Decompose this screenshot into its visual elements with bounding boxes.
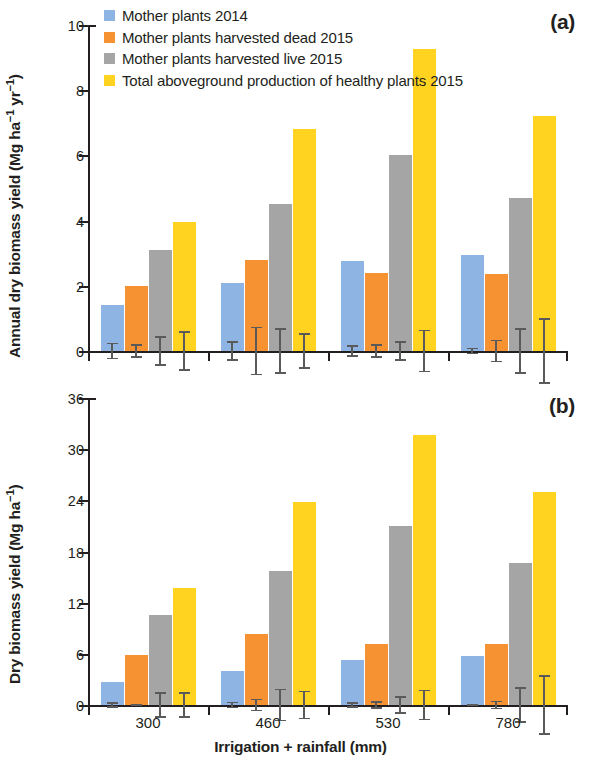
bar[interactable] bbox=[245, 260, 268, 351]
bar[interactable] bbox=[149, 615, 172, 705]
error-bar-cap-bottom bbox=[251, 710, 262, 712]
error-bar-cap-bottom bbox=[251, 374, 262, 376]
bar[interactable] bbox=[101, 305, 124, 351]
bar[interactable] bbox=[461, 656, 484, 705]
error-bar bbox=[231, 341, 233, 361]
bar[interactable] bbox=[149, 250, 172, 351]
x-tick-label-460: 460 bbox=[255, 714, 280, 731]
bar[interactable] bbox=[173, 222, 196, 351]
error-bar bbox=[111, 702, 113, 708]
legend-item-mother_plants_2014[interactable]: Mother plants 2014 bbox=[104, 6, 463, 25]
bar[interactable] bbox=[293, 129, 316, 351]
error-bar-cap-top bbox=[227, 702, 238, 704]
panel-b-y-tick-24 bbox=[79, 500, 88, 502]
error-bar-cap-bottom bbox=[491, 708, 502, 710]
panel-b-y-tick-0 bbox=[79, 705, 88, 707]
bar[interactable] bbox=[389, 155, 412, 351]
error-bar bbox=[471, 348, 473, 355]
panel-a-y-tick-10 bbox=[79, 25, 88, 27]
panel-a-x-tick-3 bbox=[448, 353, 450, 361]
bar[interactable] bbox=[509, 198, 532, 351]
error-bar-cap-bottom bbox=[131, 356, 142, 358]
error-bar-cap-top bbox=[299, 691, 310, 693]
legend-label-total_aboveground_2015: Total aboveground production of healthy … bbox=[122, 72, 463, 89]
error-bar bbox=[135, 704, 137, 707]
bar[interactable] bbox=[533, 492, 556, 705]
bar[interactable] bbox=[485, 644, 508, 705]
x-tick-label-780: 780 bbox=[495, 714, 520, 731]
error-bar bbox=[519, 328, 521, 374]
error-bar-cap-top bbox=[275, 689, 286, 691]
panel-a-y-tick-8 bbox=[79, 90, 88, 92]
error-bar-cap-bottom bbox=[371, 356, 382, 358]
error-bar bbox=[471, 704, 473, 707]
error-bar-cap-top bbox=[371, 344, 382, 346]
error-bar-cap-bottom bbox=[347, 355, 358, 357]
error-bar-cap-bottom bbox=[395, 359, 406, 361]
error-bar-cap-bottom bbox=[347, 706, 358, 708]
error-bar bbox=[279, 328, 281, 374]
legend-label-mother_plants_2014: Mother plants 2014 bbox=[122, 7, 248, 24]
bar[interactable] bbox=[293, 502, 316, 705]
error-bar bbox=[351, 345, 353, 356]
bar[interactable] bbox=[533, 116, 556, 351]
error-bar bbox=[255, 327, 257, 376]
error-bar bbox=[255, 699, 257, 712]
bar[interactable] bbox=[341, 261, 364, 351]
legend-item-harvested_live_2015[interactable]: Mother plants harvested live 2015 bbox=[104, 49, 463, 68]
legend-item-harvested_dead_2015[interactable]: Mother plants harvested dead 2015 bbox=[104, 28, 463, 47]
error-bar bbox=[399, 341, 401, 361]
bar[interactable] bbox=[269, 204, 292, 351]
bar[interactable] bbox=[365, 644, 388, 705]
x-axis-title: Irrigation + rainfall (mm) bbox=[0, 738, 601, 756]
bar[interactable] bbox=[221, 283, 244, 351]
panel-a-x-tick-1 bbox=[208, 353, 210, 361]
error-bar-cap-bottom bbox=[107, 358, 118, 360]
panel-a-y-tick-2 bbox=[79, 286, 88, 288]
bar[interactable] bbox=[461, 255, 484, 351]
error-bar-cap-top bbox=[419, 330, 430, 332]
bar[interactable] bbox=[341, 660, 364, 705]
error-bar bbox=[423, 330, 425, 372]
legend-label-harvested_dead_2015: Mother plants harvested dead 2015 bbox=[122, 29, 353, 46]
bar[interactable] bbox=[173, 588, 196, 705]
error-bar-cap-top bbox=[419, 690, 430, 692]
bar[interactable] bbox=[413, 435, 436, 705]
error-bar-cap-top bbox=[227, 341, 238, 343]
error-bar-cap-top bbox=[515, 687, 526, 689]
bar[interactable] bbox=[101, 682, 124, 705]
bar[interactable] bbox=[221, 671, 244, 705]
error-bar bbox=[183, 331, 185, 370]
bar[interactable] bbox=[509, 563, 532, 705]
panel-b-y-axis-title: Dry biomass yield (Mg ha−1) bbox=[4, 485, 24, 684]
panel-a-y-axis-title: Annual dry biomass yield (Mg ha−1 yr−1) bbox=[4, 74, 24, 358]
error-bar-cap-bottom bbox=[467, 353, 478, 355]
panel-a: (a) Annual dry biomass yield (Mg ha−1 yr… bbox=[0, 0, 601, 386]
bar[interactable] bbox=[365, 273, 388, 351]
panel-b-y-tick-30 bbox=[79, 449, 88, 451]
panel-b-y-tick-36 bbox=[79, 398, 88, 400]
panel-b-plot-area bbox=[88, 398, 568, 707]
legend-swatch-mother_plants_2014 bbox=[104, 10, 115, 21]
bar[interactable] bbox=[485, 274, 508, 351]
error-bar bbox=[111, 343, 113, 359]
panel-b-y-tick-6 bbox=[79, 654, 88, 656]
x-tick-label-300: 300 bbox=[135, 714, 160, 731]
bar[interactable] bbox=[389, 526, 412, 705]
bar[interactable] bbox=[413, 49, 436, 351]
error-bar-cap-top bbox=[179, 692, 190, 694]
error-bar-cap-top bbox=[299, 333, 310, 335]
panel-b-group-460 bbox=[208, 398, 328, 707]
error-bar-cap-bottom bbox=[107, 706, 118, 708]
error-bar bbox=[159, 336, 161, 365]
panel-b-group-780 bbox=[448, 398, 568, 707]
bar[interactable] bbox=[269, 571, 292, 705]
bar[interactable] bbox=[245, 634, 268, 705]
panel-a-group-780 bbox=[448, 25, 568, 353]
bar[interactable] bbox=[125, 286, 148, 351]
error-bar-cap-top bbox=[515, 328, 526, 330]
bar[interactable] bbox=[125, 655, 148, 705]
error-bar-cap-top bbox=[491, 340, 502, 342]
legend-swatch-harvested_dead_2015 bbox=[104, 32, 115, 43]
legend-item-total_aboveground_2015[interactable]: Total aboveground production of healthy … bbox=[104, 71, 463, 90]
